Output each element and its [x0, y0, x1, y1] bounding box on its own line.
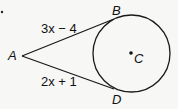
- segment-ad-label: 2x + 1: [41, 74, 77, 89]
- tangent-diagram: A B C D 3x − 4 2x + 1: [0, 0, 178, 109]
- point-b-label: B: [112, 3, 121, 18]
- segment-ab-label: 3x − 4: [41, 21, 77, 36]
- center-point: [129, 51, 133, 55]
- point-a-label: A: [7, 48, 17, 63]
- corner-dot: [1, 11, 3, 13]
- point-d-label: D: [112, 92, 121, 107]
- point-c-label: C: [134, 51, 144, 66]
